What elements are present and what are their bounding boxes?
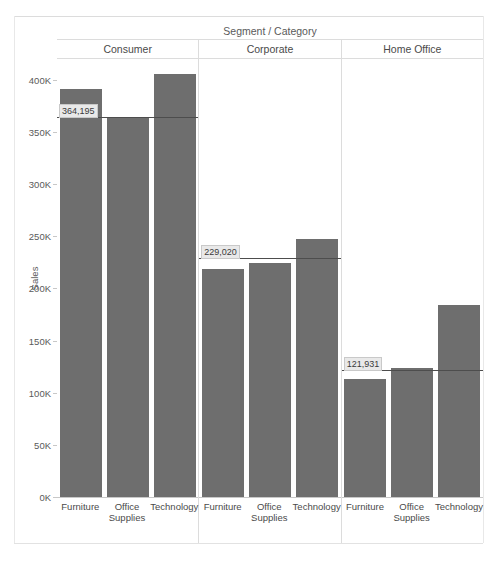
- y-axis: Sales 400K350K300K250K200K150K100K50K0K: [14, 59, 57, 497]
- x-label-consumer-technology[interactable]: Technology: [150, 497, 198, 543]
- y-tick-label: 0K: [39, 492, 51, 503]
- bar-slot: [342, 59, 389, 497]
- bar-consumer-furniture[interactable]: [60, 89, 102, 497]
- x-label-home-office-office-supplies[interactable]: Office Supplies: [388, 497, 435, 543]
- plot-area: 364,195 229,020 121,931: [57, 59, 483, 497]
- x-label-line2: Supplies: [393, 512, 429, 523]
- x-label-corporate-technology[interactable]: Technology: [293, 497, 341, 543]
- bar-corporate-technology[interactable]: [296, 239, 338, 497]
- pane-header-home-office[interactable]: Home Office: [342, 40, 483, 58]
- y-tick-label: 300K: [29, 179, 51, 190]
- x-label-home-office-technology[interactable]: Technology: [435, 497, 483, 543]
- bar-slot: [199, 59, 246, 497]
- bar-group-consumer: [57, 59, 198, 497]
- bar-slot: [389, 59, 436, 497]
- pane-header-consumer[interactable]: Consumer: [57, 40, 199, 58]
- bar-home-office-furniture[interactable]: [344, 379, 386, 497]
- reference-line-label-corporate: 229,020: [201, 245, 240, 259]
- bar-slot: [57, 59, 104, 497]
- frame-right-border: [483, 16, 484, 543]
- x-label-consumer-furniture[interactable]: Furniture: [57, 497, 104, 543]
- x-pane-consumer: Furniture Office Supplies Technology: [57, 497, 199, 543]
- x-label-line2: Supplies: [109, 512, 145, 523]
- bar-group-corporate: [199, 59, 340, 497]
- bar-slot: [294, 59, 341, 497]
- bar-group-home-office: [342, 59, 483, 497]
- pane-header-corporate[interactable]: Corporate: [199, 40, 341, 58]
- column-field-title: Segment / Category: [57, 23, 483, 39]
- y-tick-label: 350K: [29, 127, 51, 138]
- y-tick-label: 100K: [29, 387, 51, 398]
- bar-consumer-technology[interactable]: [154, 74, 196, 497]
- bar-slot: [246, 59, 293, 497]
- bar-home-office-technology[interactable]: [438, 305, 480, 497]
- y-tick-label: 200K: [29, 283, 51, 294]
- x-pane-corporate: Furniture Office Supplies Technology: [199, 497, 341, 543]
- x-label-line1: Office: [257, 501, 282, 512]
- y-tick-label: 250K: [29, 231, 51, 242]
- x-axis: Furniture Office Supplies Technology Fur…: [57, 497, 483, 543]
- x-label-corporate-furniture[interactable]: Furniture: [199, 497, 246, 543]
- y-tick-label: 400K: [29, 74, 51, 85]
- reference-line-label-home-office: 121,931: [344, 357, 383, 371]
- bar-slot: [151, 59, 198, 497]
- chart-viewport: Segment / Category Consumer Corporate Ho…: [0, 0, 497, 562]
- bar-consumer-office-supplies[interactable]: [107, 118, 149, 497]
- pane-home-office: 121,931: [342, 59, 483, 497]
- x-label-line1: Office: [399, 501, 424, 512]
- y-tick-label: 150K: [29, 335, 51, 346]
- x-label-line2: Supplies: [251, 512, 287, 523]
- x-label-home-office-furniture[interactable]: Furniture: [342, 497, 389, 543]
- bar-home-office-office-supplies[interactable]: [391, 368, 433, 497]
- bar-slot: [436, 59, 483, 497]
- pane-header-row: Consumer Corporate Home Office: [57, 39, 483, 59]
- x-label-line1: Office: [115, 501, 140, 512]
- bar-corporate-office-supplies[interactable]: [249, 263, 291, 497]
- y-axis-title: Sales: [28, 59, 42, 497]
- pane-corporate: 229,020: [199, 59, 341, 497]
- bar-slot: [104, 59, 151, 497]
- y-tick-label: 50K: [34, 439, 51, 450]
- reference-line-label-consumer: 364,195: [59, 104, 98, 118]
- frame-bottom-border: [14, 543, 483, 544]
- x-label-consumer-office-supplies[interactable]: Office Supplies: [104, 497, 151, 543]
- bar-corporate-furniture[interactable]: [202, 269, 244, 497]
- x-pane-home-office: Furniture Office Supplies Technology: [342, 497, 483, 543]
- x-label-corporate-office-supplies[interactable]: Office Supplies: [246, 497, 293, 543]
- pane-consumer: 364,195: [57, 59, 199, 497]
